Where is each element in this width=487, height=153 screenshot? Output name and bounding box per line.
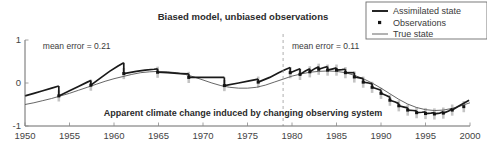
- observation-point: [362, 81, 365, 84]
- x-tick-label: 1985: [326, 130, 347, 141]
- observation-point: [289, 71, 292, 74]
- x-axis-tick-labels: 1950195519601965197019751980198519901995…: [14, 130, 480, 141]
- chart-caption: Apparent climate change induced by chang…: [104, 108, 383, 118]
- observation-point: [299, 73, 302, 76]
- observation-point: [397, 104, 400, 107]
- observation-point: [122, 72, 125, 75]
- observation-point: [442, 112, 445, 115]
- assimilated-state-segment: [158, 72, 189, 74]
- observation-point: [89, 84, 92, 87]
- x-tick-label: 1995: [415, 130, 436, 141]
- legend-dot-marker: [378, 21, 381, 24]
- assimilated-state-segment: [258, 68, 290, 83]
- observation-point: [257, 81, 260, 84]
- observation-point: [451, 109, 454, 112]
- observation-point: [317, 68, 320, 71]
- observation-point: [156, 71, 159, 74]
- observation-point: [406, 109, 409, 112]
- y-tick-label: -1: [13, 120, 21, 131]
- legend-label: Observations: [393, 18, 447, 28]
- observation-point: [308, 70, 311, 73]
- x-tick-label: 1970: [192, 130, 213, 141]
- legend-label: Assimilated state: [393, 6, 461, 16]
- x-tick-label: 1965: [148, 130, 169, 141]
- observation-point: [388, 99, 391, 102]
- observation-point: [424, 112, 427, 115]
- observation-point: [326, 69, 329, 72]
- observation-point: [371, 86, 374, 89]
- y-tick-label: 0: [16, 77, 21, 88]
- observation-point: [187, 76, 190, 79]
- observation-point: [415, 111, 418, 114]
- chart-legend: Assimilated stateObservationsTrue state: [366, 2, 487, 39]
- observation-point: [344, 71, 347, 74]
- y-axis-tick-labels: 10-1: [13, 34, 21, 131]
- legend-label: True state: [393, 29, 433, 39]
- observation-point: [335, 69, 338, 72]
- observation-point: [353, 75, 356, 78]
- mean-error-annotation: mean error = 0.21: [43, 41, 111, 51]
- chart-figure: 1950195519601965197019751980198519901995…: [0, 0, 487, 153]
- observation-point: [223, 84, 226, 87]
- assimilated-state-segment: [452, 100, 469, 110]
- assimilated-state-segment: [224, 79, 258, 85]
- x-tick-label: 1955: [59, 130, 80, 141]
- observation-point: [462, 105, 465, 108]
- mean-error-annotation: mean error = 0.11: [292, 41, 359, 51]
- x-tick-label: 1990: [370, 130, 391, 141]
- x-tick-label: 1960: [103, 130, 124, 141]
- observation-point: [57, 94, 60, 97]
- x-tick-label: 1950: [14, 130, 35, 141]
- observation-point: [433, 112, 436, 115]
- x-tick-label: 1975: [237, 130, 258, 141]
- chart-annotations: mean error = 0.21mean error = 0.11: [43, 41, 360, 51]
- chart-title: Biased model, unbiased observations: [158, 11, 329, 22]
- y-tick-label: 1: [16, 34, 21, 45]
- observation-point: [380, 92, 383, 95]
- x-tick-label: 2000: [459, 130, 480, 141]
- x-tick-label: 1980: [281, 130, 302, 141]
- assimilated-state-segment: [91, 63, 124, 85]
- assimilated-state-segment: [25, 86, 59, 96]
